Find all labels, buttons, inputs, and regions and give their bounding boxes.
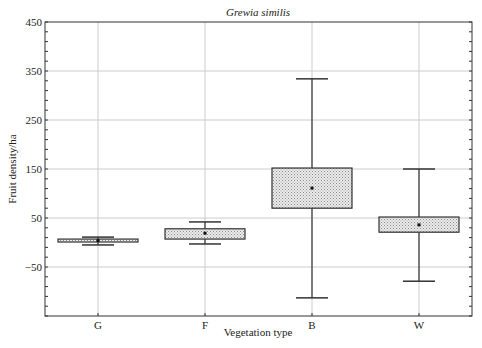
median-marker — [97, 239, 100, 242]
y-tick-label: 250 — [26, 114, 43, 126]
x-axis-label: Vegetation type — [224, 326, 293, 338]
box-W — [379, 169, 459, 281]
chart-title: Grewia similis — [226, 6, 290, 18]
box-F — [165, 222, 245, 244]
median-marker — [311, 187, 314, 190]
median-marker — [418, 223, 421, 226]
x-tick-label: F — [202, 319, 208, 331]
y-tick-label: −50 — [25, 261, 43, 273]
box-G — [58, 237, 138, 245]
y-tick-label: 50 — [31, 212, 43, 224]
y-axis-label: Fruit density/ha — [6, 134, 18, 203]
y-tick-label: 350 — [26, 65, 43, 77]
x-tick-label: G — [94, 319, 102, 331]
median-marker — [204, 232, 207, 235]
y-tick-label: 150 — [26, 163, 43, 175]
box-group — [58, 79, 459, 298]
y-axis: 45035025015050−50 — [25, 16, 472, 316]
y-tick-label: 450 — [26, 16, 43, 28]
x-tick-label: B — [308, 319, 315, 331]
box-plot-chart: Grewia similis 45035025015050−50 GFBW Ve… — [0, 0, 482, 348]
box-B — [272, 79, 352, 298]
x-tick-label: W — [414, 319, 425, 331]
